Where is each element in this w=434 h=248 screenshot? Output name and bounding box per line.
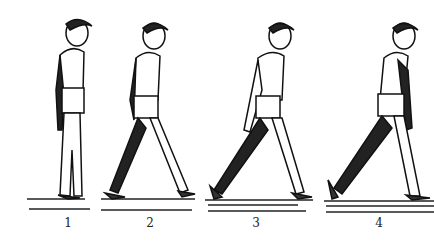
- figure-label-4: 4: [369, 216, 389, 230]
- figure-label-1: 1: [58, 216, 78, 230]
- figure-4: [328, 23, 430, 200]
- figure-label-3: 3: [246, 216, 266, 230]
- figure-label-2: 2: [140, 216, 160, 230]
- figure-3: [210, 23, 312, 199]
- walking-sequence-illustration: [0, 0, 434, 248]
- figure-1: [56, 19, 92, 199]
- figure-2: [105, 23, 195, 199]
